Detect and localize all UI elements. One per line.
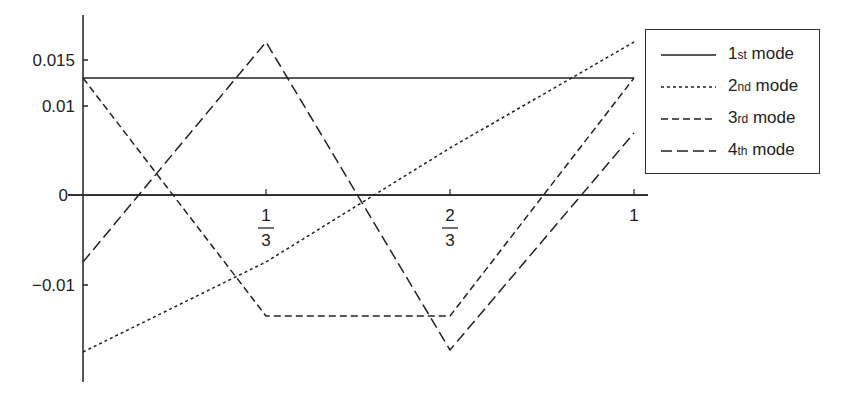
x-tick-label-den: 3 (261, 231, 270, 250)
y-tick-label: 0.01 (42, 97, 75, 116)
legend-item-3rd-mode: 3rd mode (646, 104, 819, 134)
legend-item-4th-mode: 4th mode (646, 136, 819, 166)
legend-item-2nd-mode: 2nd mode (646, 72, 819, 102)
legend-item-1st-mode: 1st mode (646, 40, 819, 70)
legend: 1st mode 2nd mode 3rd mode 4th mode (645, 29, 820, 174)
x-tick-label-den: 3 (445, 231, 454, 250)
x-tick-label-num: 2 (445, 206, 454, 225)
y-tick-label: −0.01 (32, 276, 75, 295)
y-tick-label: 0.015 (32, 51, 75, 70)
x-tick-label: 1 (629, 206, 638, 225)
y-tick-label: 0 (59, 186, 68, 205)
x-tick-label-num: 1 (261, 206, 270, 225)
